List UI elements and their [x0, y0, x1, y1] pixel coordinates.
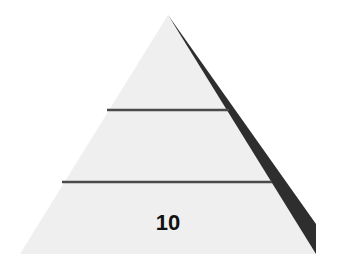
tier-bottom: 10: [156, 210, 180, 235]
pyramid-diagram: 10: [0, 0, 347, 272]
tier-bottom-label: 10: [156, 210, 180, 235]
